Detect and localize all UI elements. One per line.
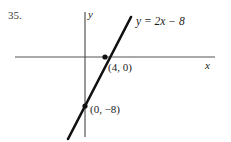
point-marker-x-intercept xyxy=(102,54,107,59)
equation-label: y = 2x − 8 xyxy=(136,16,185,28)
plotted-line xyxy=(68,17,131,139)
point-label-y-intercept: (0, −8) xyxy=(90,104,120,115)
graph-figure: 35. y x y = 2x − 8 (4, 0) (0, −8) xyxy=(0,0,231,142)
problem-number: 35. xyxy=(8,10,22,21)
y-axis-label: y xyxy=(88,9,93,20)
x-axis-label: x xyxy=(205,60,210,71)
point-label-x-intercept: (4, 0) xyxy=(108,62,132,73)
point-marker-y-intercept xyxy=(82,103,87,108)
